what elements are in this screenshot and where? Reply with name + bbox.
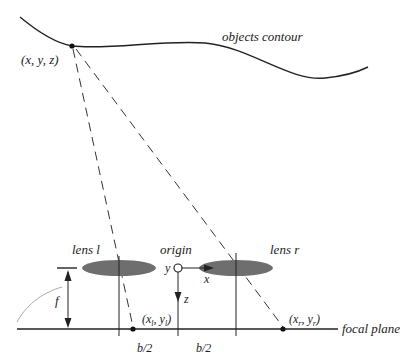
origin-circle: [174, 264, 182, 272]
ray-left: [73, 49, 133, 327]
contour-label: objects contour: [222, 29, 303, 44]
image-point-left-dot: [130, 326, 135, 331]
half-baseline-right-label: b/2: [196, 341, 211, 355]
lens-left-label: lens l: [72, 242, 100, 257]
f-arrow-down-icon: [65, 318, 72, 328]
x-axis-label: x: [203, 272, 210, 286]
z-axis-arrow-icon: [175, 292, 182, 302]
focal-plane-label: focal plane: [342, 321, 400, 336]
image-point-right-dot: [280, 326, 285, 331]
lens-right-label: lens r: [270, 242, 300, 257]
z-axis-label: z: [183, 292, 189, 306]
image-point-right-label: (xr, yr): [289, 312, 320, 328]
focal-length-label: f: [55, 293, 61, 308]
stereo-vision-diagram: (x, y, z) objects contour lens l lens r …: [0, 0, 415, 362]
image-point-left-label: (xl, yl): [142, 312, 171, 328]
origin-label: origin: [160, 242, 192, 257]
f-arrow-up-icon: [65, 270, 72, 281]
y-axis-label: y: [164, 261, 171, 275]
half-baseline-left-label: b/2: [137, 341, 152, 355]
object-point-label: (x, y, z): [21, 52, 59, 67]
ray-right: [76, 49, 283, 327]
object-point-dot: [69, 43, 74, 48]
